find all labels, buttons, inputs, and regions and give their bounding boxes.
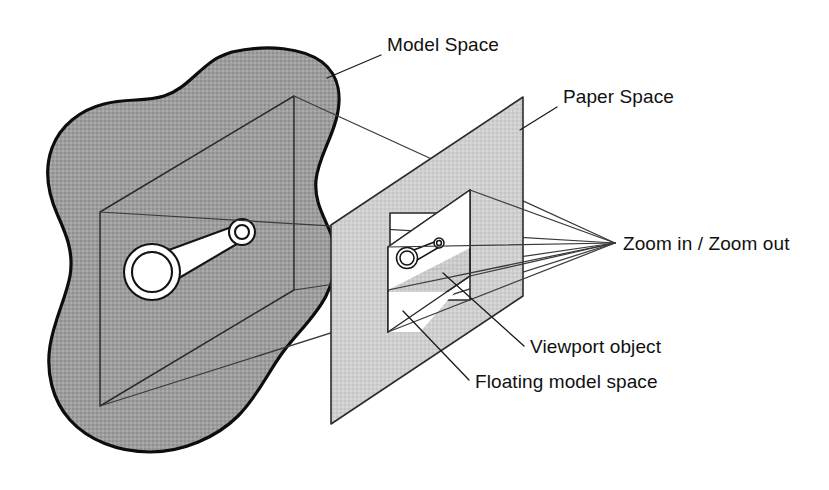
connecting-rod-small-bore-inner bbox=[235, 225, 249, 239]
viewport-rod-big-bore-inner bbox=[400, 251, 414, 265]
label-paper-space: Paper Space bbox=[563, 86, 674, 107]
label-floating-model-space: Floating model space bbox=[475, 371, 658, 392]
viewport-rod-small-bore-inner bbox=[437, 241, 442, 246]
diagram-root: Model Space Paper Space Zoom in / Zoom o… bbox=[0, 0, 829, 490]
label-zoom-in-out: Zoom in / Zoom out bbox=[623, 233, 790, 254]
label-viewport-object: Viewport object bbox=[530, 336, 662, 357]
label-model-space: Model Space bbox=[387, 34, 499, 55]
connecting-rod-big-bore-inner bbox=[132, 252, 172, 292]
technical-diagram: Model Space Paper Space Zoom in / Zoom o… bbox=[0, 0, 829, 490]
leader-paper-space bbox=[520, 107, 557, 130]
leader-model-space bbox=[327, 55, 381, 78]
